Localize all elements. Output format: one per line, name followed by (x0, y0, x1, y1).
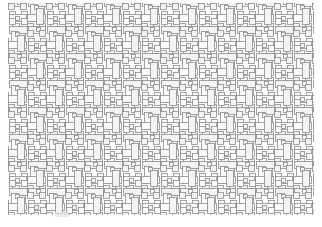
pattern-figure (0, 0, 322, 227)
scan-artifact (55, 212, 69, 217)
tiling-pattern-canvas (0, 0, 322, 227)
